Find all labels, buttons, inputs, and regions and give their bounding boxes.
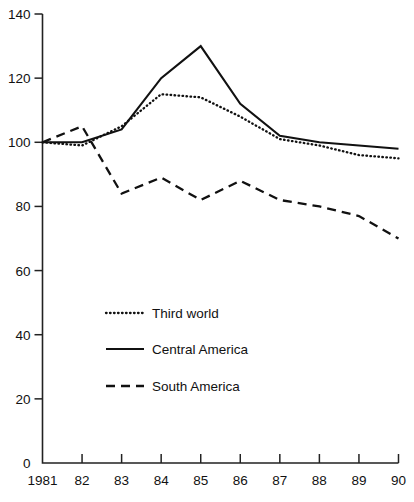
x-tick-label: 87 bbox=[272, 473, 287, 488]
series-line-third-world bbox=[43, 94, 399, 158]
legend-label-central-america: Central America bbox=[152, 342, 249, 357]
legend-label-south-america: South America bbox=[152, 379, 240, 394]
x-tick-label: 83 bbox=[114, 473, 129, 488]
chart-series bbox=[43, 46, 399, 238]
y-tick-label: 120 bbox=[8, 71, 31, 86]
x-tick-label: 88 bbox=[312, 473, 327, 488]
series-line-south-america bbox=[43, 126, 399, 238]
axis-lines bbox=[43, 14, 399, 463]
x-axis-ticks: 1981828384858687888990 bbox=[27, 454, 406, 488]
chart-canvas: 020406080100120140 198182838485868788899… bbox=[0, 0, 414, 502]
series-line-central-america bbox=[43, 46, 399, 149]
y-axis-ticks: 020406080100120140 bbox=[8, 7, 43, 471]
y-tick-label: 100 bbox=[8, 135, 31, 150]
line-chart: 020406080100120140 198182838485868788899… bbox=[0, 0, 414, 502]
chart-axes bbox=[43, 14, 399, 463]
legend-label-third-world: Third world bbox=[152, 306, 219, 321]
y-tick-label: 140 bbox=[8, 7, 31, 22]
x-tick-label: 84 bbox=[154, 473, 170, 488]
y-tick-label: 20 bbox=[15, 392, 30, 407]
x-tick-label: 90 bbox=[391, 473, 406, 488]
x-tick-label: 89 bbox=[351, 473, 366, 488]
y-tick-label: 80 bbox=[15, 199, 30, 214]
chart-legend: Third worldCentral AmericaSouth America bbox=[106, 306, 249, 394]
x-tick-label: 86 bbox=[233, 473, 248, 488]
x-tick-label: 82 bbox=[75, 473, 90, 488]
x-tick-label: 85 bbox=[193, 473, 208, 488]
y-tick-label: 60 bbox=[15, 264, 30, 279]
y-tick-label: 0 bbox=[23, 456, 31, 471]
x-tick-label: 1981 bbox=[27, 473, 57, 488]
y-tick-label: 40 bbox=[15, 328, 30, 343]
